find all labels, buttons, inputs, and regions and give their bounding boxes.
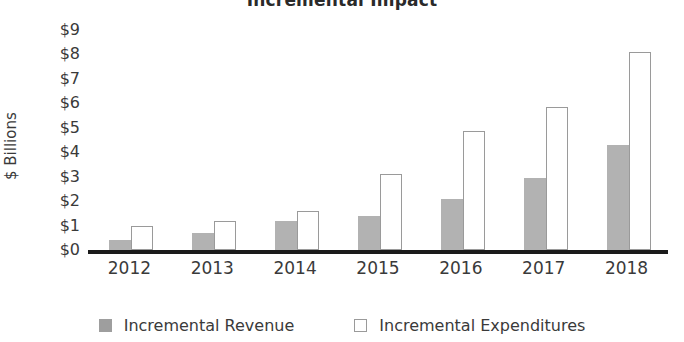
chart-legend: Incremental RevenueIncremental Expenditu… — [0, 312, 684, 338]
legend-item-label: Incremental Expenditures — [379, 316, 585, 335]
x-axis-tick-labels: 2012201320142015201620172018 — [88, 258, 668, 282]
bar-group — [275, 30, 319, 250]
bar-revenue-2016[interactable] — [441, 199, 463, 250]
bar-revenue-2012[interactable] — [109, 240, 131, 250]
bar-expenditure-2015[interactable] — [380, 174, 402, 250]
y-axis-tick-label: $4 — [38, 144, 80, 160]
chart-title-cropped: Incremental Impact — [0, 0, 684, 10]
bar-revenue-2017[interactable] — [524, 178, 546, 250]
bar-group — [441, 30, 485, 250]
x-axis-tick-label: 2012 — [88, 258, 171, 278]
bar-expenditure-2012[interactable] — [131, 226, 153, 250]
bar-chart: Incremental Impact $ Billions $9$8$7$6$5… — [0, 0, 684, 342]
bar-expenditure-2017[interactable] — [546, 107, 568, 250]
y-axis-tick-label: $8 — [38, 46, 80, 62]
y-axis-tick-label: $9 — [38, 22, 80, 38]
bar-group — [358, 30, 402, 250]
bar-revenue-2014[interactable] — [275, 221, 297, 250]
bar-expenditure-2016[interactable] — [463, 131, 485, 250]
y-axis-tick-label: $5 — [38, 120, 80, 136]
x-axis-tick-label: 2017 — [502, 258, 585, 278]
bar-expenditure-2013[interactable] — [214, 221, 236, 250]
x-axis-tick-label: 2016 — [419, 258, 502, 278]
x-axis-tick-label: 2013 — [171, 258, 254, 278]
bar-revenue-2013[interactable] — [192, 233, 214, 250]
y-axis-tick-labels: $9$8$7$6$5$4$3$2$1$0 — [38, 28, 80, 250]
y-axis-tick-label: $1 — [38, 218, 80, 234]
y-axis-tick-label: $2 — [38, 193, 80, 209]
y-axis-title: $ Billions — [2, 96, 26, 196]
legend-item[interactable]: Incremental Expenditures — [354, 316, 585, 335]
bar-group — [607, 30, 651, 250]
x-axis-tick-label: 2015 — [337, 258, 420, 278]
bar-revenue-2018[interactable] — [607, 145, 629, 250]
bar-expenditure-2018[interactable] — [629, 52, 651, 250]
chart-title-text: Incremental Impact — [247, 0, 438, 9]
legend-item-label: Incremental Revenue — [124, 316, 295, 335]
bar-revenue-2015[interactable] — [358, 216, 380, 250]
x-axis-tick-label: 2018 — [585, 258, 668, 278]
y-axis-tick-label: $0 — [38, 242, 80, 258]
filled-square-icon — [99, 319, 112, 332]
bar-group — [192, 30, 236, 250]
x-axis-tick-label: 2014 — [254, 258, 337, 278]
x-axis-line — [88, 250, 668, 254]
bar-group — [109, 30, 153, 250]
bar-expenditure-2014[interactable] — [297, 211, 319, 250]
plot-area — [88, 30, 668, 250]
y-axis-tick-label: $7 — [38, 71, 80, 87]
y-axis-tick-label: $3 — [38, 169, 80, 185]
hollow-square-icon — [354, 319, 367, 332]
legend-item[interactable]: Incremental Revenue — [99, 316, 295, 335]
bar-group — [524, 30, 568, 250]
y-axis-tick-label: $6 — [38, 95, 80, 111]
